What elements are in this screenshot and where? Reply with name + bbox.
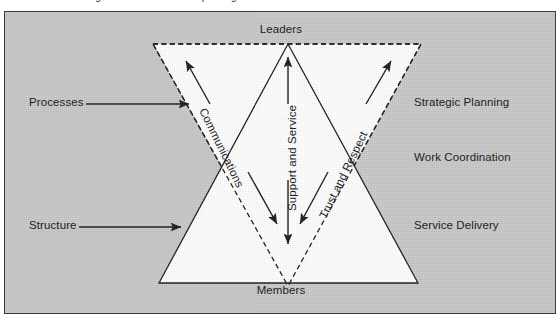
vertex-label-leaders: Leaders: [5, 23, 556, 35]
left-label-structure: Structure: [29, 219, 77, 231]
caption-strip: organizational relationship triangle mod…: [0, 0, 560, 10]
axis-label-support-and-service: Support and Service: [286, 105, 298, 211]
figure-frame: Leaders Members Processes Structure Stra…: [4, 11, 556, 314]
right-label-work-coordination: Work Coordination: [414, 151, 511, 163]
left-label-processes: Processes: [29, 96, 84, 108]
caption-text: organizational relationship triangle mod…: [86, 0, 276, 2]
right-label-service-delivery: Service Delivery: [414, 219, 499, 231]
figure-page: organizational relationship triangle mod…: [0, 0, 560, 327]
vertex-label-members: Members: [5, 284, 556, 296]
right-label-strategic-planning: Strategic Planning: [414, 96, 509, 108]
